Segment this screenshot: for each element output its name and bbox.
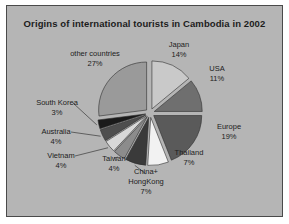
pie-label-thailand-text: Thailand [175,148,204,157]
pie-label-vietnam: Vietnam 4% [47,151,74,171]
pie-label-usa: USA 11% [209,64,224,84]
pie-label-vietnam-percent: 4% [47,161,74,171]
pie-label-china-hongkong-text2: HongKong [128,177,163,187]
pie-label-south-korea-text: South Korea [36,98,78,107]
pie-label-other-countries-text: other countries [70,49,120,58]
pie-label-thailand-percent: 7% [175,158,204,168]
chart-panel: Origins of international tourists in Cam… [6,5,283,217]
chart-screenshot: Origins of international tourists in Cam… [0,0,289,224]
pie-label-usa-percent: 11% [209,74,224,84]
pie-label-taiwan: Taiwan 4% [102,154,125,174]
pie-label-china-hongkong: China+ HongKong 7% [128,167,163,197]
pie-label-australia: Australia 4% [41,127,70,147]
pie-label-europe: Europe 19% [217,122,241,142]
pie-slice-other-countries [99,62,147,116]
pie-label-china-hongkong-text: China+ [134,167,158,176]
pie-label-australia-percent: 4% [41,137,70,147]
pie-label-europe-percent: 19% [217,132,241,142]
pie-label-australia-text: Australia [41,127,70,136]
pie-label-south-korea-percent: 3% [36,108,78,118]
pie-label-taiwan-text: Taiwan [102,154,125,163]
pie-label-europe-text: Europe [217,122,241,131]
leader-line-australia [71,132,101,136]
pie-label-taiwan-percent: 4% [102,164,125,174]
pie-label-other-countries-percent: 27% [70,59,120,69]
pie-label-japan-percent: 14% [169,50,189,60]
pie-label-japan-text: Japan [169,40,189,49]
pie-label-other-countries: other countries 27% [70,49,120,69]
pie-label-china-hongkong-percent: 7% [128,187,163,197]
pie-label-usa-text: USA [209,64,224,73]
pie-label-south-korea: South Korea 3% [36,98,78,118]
pie-label-vietnam-text: Vietnam [47,151,74,160]
pie-label-thailand: Thailand 7% [175,148,204,168]
pie-label-japan: Japan 14% [169,40,189,60]
